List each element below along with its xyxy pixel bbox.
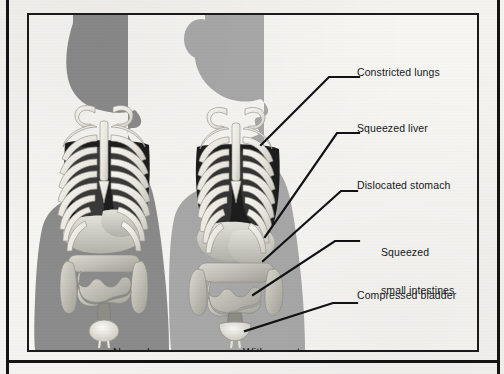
scan-border-bottom [6, 360, 500, 363]
caption-normal: Normal [113, 346, 150, 352]
male-bladder [89, 320, 119, 342]
scan-border-right [497, 0, 500, 374]
caption-with-corset: With corset [243, 346, 300, 352]
callout-label-lungs: Constricted lungs [357, 66, 440, 79]
panel-normal [34, 15, 169, 350]
female-colon-compressed [198, 263, 273, 282]
male-descending-colon [131, 261, 148, 313]
leader-line-lungs [261, 77, 359, 145]
female-ascending-colon [189, 269, 207, 315]
callout-label-bladder: Compressed bladder [357, 289, 456, 302]
callout-label-intestines-line1: Squeezed [381, 246, 454, 259]
male-colon [68, 255, 139, 272]
callout-label-intestines: Squeezed small intestines [381, 221, 454, 321]
female-hair-bun [184, 19, 218, 59]
male-ascending-colon [60, 261, 77, 313]
scan-border-left [6, 0, 9, 374]
panel-with-corset [169, 15, 305, 350]
scanned-figure-page: Normal With corset Constricted lungs Squ… [0, 0, 504, 374]
callout-label-liver: Squeezed liver [357, 122, 428, 135]
callout-label-stomach: Dislocated stomach [357, 179, 450, 192]
